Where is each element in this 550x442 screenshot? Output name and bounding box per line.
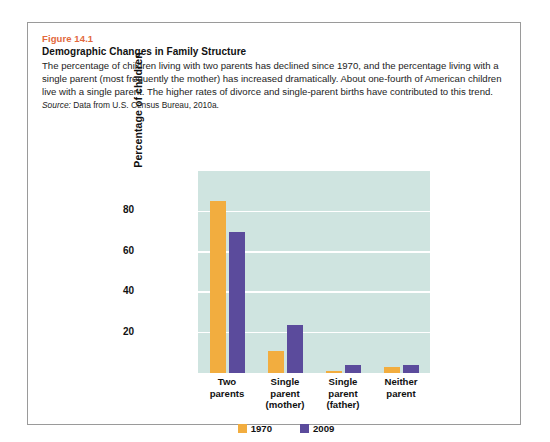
x-axis-labels: TwoparentsSingleparent(mother)Singlepare…	[198, 376, 430, 411]
gridline	[198, 332, 430, 334]
gridline	[198, 251, 430, 253]
plot-area	[198, 171, 430, 373]
x-axis-label-3: Neitherparent	[373, 376, 429, 411]
y-tick-label: 40	[108, 285, 134, 296]
y-tick-label: 60	[108, 245, 134, 256]
figure-box: Figure 14.1 Demographic Changes in Famil…	[27, 22, 521, 425]
figure-number: Figure 14.1	[42, 33, 502, 44]
x-axis-label-2: Singleparent(father)	[315, 376, 371, 411]
figure-description: The percentage of children living with t…	[42, 59, 502, 98]
legend-label: 1970	[251, 423, 272, 434]
chart-legend: 19702009	[156, 423, 416, 434]
figure-source: Source: Data from U.S. Census Bureau, 20…	[42, 99, 502, 111]
y-axis-title: Percentage of children	[132, 35, 148, 185]
legend-label: 2009	[313, 423, 334, 434]
legend-swatch-icon	[300, 424, 309, 433]
gridline	[198, 291, 430, 293]
legend-swatch-icon	[238, 424, 247, 433]
legend-item-2009[interactable]: 2009	[300, 423, 334, 434]
caption-block: Figure 14.1 Demographic Changes in Famil…	[42, 33, 502, 111]
y-tick-label: 80	[108, 204, 134, 215]
figure-title: Demographic Changes in Family Structure	[42, 46, 502, 57]
y-tick-label: 20	[108, 326, 134, 337]
bar-chart: Percentage of children TwoparentsSinglep…	[138, 145, 438, 420]
gridline	[198, 211, 430, 213]
x-axis-label-1: Singleparent(mother)	[257, 376, 313, 411]
legend-item-1970[interactable]: 1970	[238, 423, 272, 434]
x-axis-label-0: Twoparents	[199, 376, 255, 411]
source-label: Source:	[42, 100, 71, 110]
